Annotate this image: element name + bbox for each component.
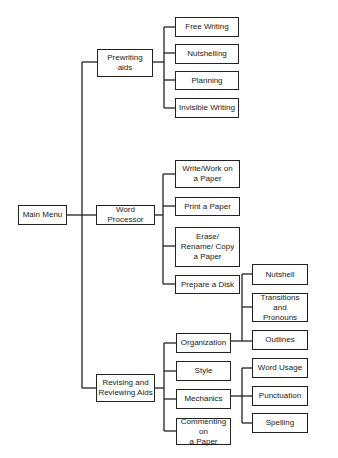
node-label: Nutshelling bbox=[187, 49, 227, 59]
node-revising-reviewing-aids: Revising and Reviewing Aids bbox=[96, 374, 155, 402]
node-label: Free Writing bbox=[185, 22, 228, 32]
node-label: Nutshell bbox=[266, 270, 295, 280]
node-label: Outlines bbox=[265, 335, 294, 345]
node-label: Organization bbox=[181, 338, 226, 348]
node-label: Main Menu bbox=[23, 210, 63, 220]
node-outlines: Outlines bbox=[252, 330, 308, 350]
node-main-menu: Main Menu bbox=[18, 205, 67, 225]
node-free-writing: Free Writing bbox=[175, 17, 239, 37]
node-word-usage: Word Usage bbox=[252, 358, 308, 378]
node-label: Spelling bbox=[266, 418, 294, 428]
node-commenting-paper: Commenting on a Paper bbox=[176, 418, 231, 445]
node-label: Mechanics bbox=[184, 394, 222, 404]
node-label: Prepare a Disk bbox=[181, 280, 234, 290]
node-label: Punctuation bbox=[259, 391, 301, 401]
node-write-work-paper: Write/Work on a Paper bbox=[175, 160, 240, 188]
node-style: Style bbox=[176, 361, 231, 381]
node-prepare-disk: Prepare a Disk bbox=[175, 275, 240, 294]
node-label: Erase/ Rename/ Copy a Paper bbox=[181, 232, 234, 262]
node-label: Commenting on a Paper bbox=[178, 417, 229, 447]
node-nutshell: Nutshell bbox=[252, 264, 308, 285]
node-label: Word Usage bbox=[258, 363, 302, 373]
node-punctuation: Punctuation bbox=[252, 386, 308, 406]
node-label: Style bbox=[195, 366, 213, 376]
node-label: Word Processor bbox=[98, 205, 153, 225]
node-transitions-pronouns: Transitions and Pronouns bbox=[252, 293, 308, 322]
node-label: Transitions and Pronouns bbox=[254, 293, 306, 323]
node-label: Invisible Writing bbox=[179, 103, 235, 113]
node-invisible-writing: Invisible Writing bbox=[175, 98, 239, 118]
node-label: Write/Work on a Paper bbox=[182, 164, 232, 184]
node-label: Revising and Reviewing Aids bbox=[98, 378, 152, 398]
node-prewriting-aids: Prewriting aids bbox=[97, 49, 153, 77]
node-label: Print a Paper bbox=[184, 202, 231, 212]
node-label: Planning bbox=[191, 76, 222, 86]
node-organization: Organization bbox=[176, 333, 231, 353]
node-spelling: Spelling bbox=[252, 413, 308, 433]
node-print-paper: Print a Paper bbox=[175, 197, 240, 216]
node-word-processor: Word Processor bbox=[96, 205, 155, 225]
node-label: Prewriting aids bbox=[107, 53, 143, 73]
node-planning: Planning bbox=[175, 71, 239, 90]
node-mechanics: Mechanics bbox=[176, 389, 231, 409]
node-erase-rename-copy: Erase/ Rename/ Copy a Paper bbox=[175, 227, 240, 267]
node-nutshelling: Nutshelling bbox=[175, 44, 239, 64]
